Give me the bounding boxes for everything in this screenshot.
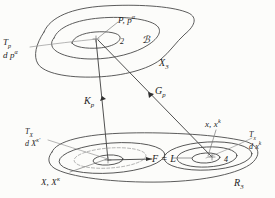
f-equals-l-label: F = L (152, 154, 176, 165)
mapping-kp-label: Kp (84, 96, 94, 108)
upper-tangent-label-bottom: d pα (3, 49, 18, 60)
kp-arrowhead (100, 96, 106, 101)
lower-left-point-label: X, Xκ (41, 176, 60, 187)
lower-right-point-label: x, xk (205, 118, 221, 129)
upper-point-label: P, pα (118, 14, 135, 25)
lower-right-point-leader (208, 130, 216, 156)
mapping-arrows-group (96, 40, 212, 160)
lower-left-outer-ellipse (58, 139, 166, 176)
upper-tangent-label-top: Tp (3, 38, 18, 49)
lower-right-tangent-label: Tx d xk (249, 131, 261, 151)
mapping-gp-label: Gp (155, 86, 166, 98)
lower-left-tangent-label: TX d Xκ' (25, 128, 40, 148)
lower-left-tangent-bottom: d Xκ' (25, 138, 40, 148)
diagram-strokes (0, 0, 275, 198)
upper-tangent-line (30, 39, 97, 47)
diagram-canvas: Tp d pα P, pα 2 ℬ X3 Kp Gp TX d Xκ' X, X… (0, 0, 275, 198)
gp-arrow-line (98, 40, 212, 157)
lower-left-tangent-line (48, 140, 108, 159)
upper-region-group (30, 5, 194, 77)
lower-left-point-leader (70, 159, 107, 172)
upper-tangent-label: Tp d pα (3, 38, 18, 61)
f-equals-l-connector (108, 159, 152, 160)
upper-set-symbol: ℬ (142, 35, 150, 46)
upper-point-leader (98, 22, 118, 38)
lower-right-tangent-bottom: d xk (249, 141, 261, 151)
upper-inner-marker: 2 (120, 38, 124, 46)
lower-boundary-label: R3 (234, 178, 244, 190)
upper-outer-boundary (36, 5, 195, 77)
lower-right-inner-marker: 4 (224, 156, 228, 164)
upper-boundary-label: X3 (159, 58, 169, 70)
